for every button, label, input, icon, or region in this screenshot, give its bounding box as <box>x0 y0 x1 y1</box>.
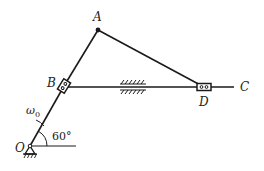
label-c: C <box>240 80 249 94</box>
label-omega: ω0 <box>26 104 40 119</box>
link-ba <box>64 30 98 86</box>
joint-a <box>96 28 101 33</box>
label-angle: 60° <box>52 130 72 143</box>
label-b: B <box>46 76 56 90</box>
link-ad <box>98 30 204 87</box>
label-omega-sub: 0 <box>35 110 40 119</box>
slider-b <box>57 79 70 93</box>
label-a: A <box>92 10 102 24</box>
slider-d <box>197 84 211 91</box>
label-d: D <box>198 95 209 109</box>
label-o: O <box>15 141 25 155</box>
angle-arc <box>39 131 48 146</box>
mechanism-diagram: A B C D O ω0 60° <box>0 0 264 171</box>
